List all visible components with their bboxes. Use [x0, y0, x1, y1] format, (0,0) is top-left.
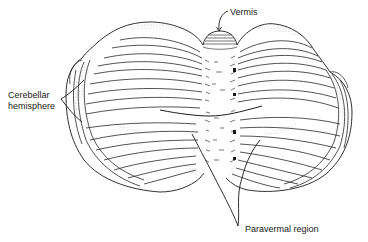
vermis-leader: [219, 11, 228, 30]
vermis-label: Vermis: [230, 7, 258, 18]
cerebellar-hemisphere-label-line1: Cerebellar: [8, 90, 55, 101]
left-hemisphere-folia: [74, 38, 202, 186]
cerebellum-diagram: [0, 0, 368, 242]
paravermal-region-label: Paravermal region: [245, 224, 319, 235]
vermis-band: [160, 50, 262, 178]
vermis-dome: [203, 31, 237, 49]
cerebellar-hemisphere-label-line2: hemisphere: [8, 101, 55, 112]
right-hemisphere-folia: [232, 41, 348, 188]
cerebellar-hemisphere-label: Cerebellar hemisphere: [8, 90, 55, 112]
paravermal-leader-right: [238, 140, 260, 226]
